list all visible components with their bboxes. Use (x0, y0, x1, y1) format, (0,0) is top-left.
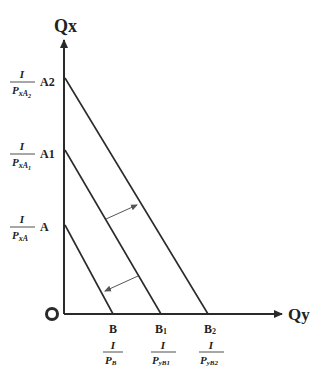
svg-text:A1: A1 (40, 147, 55, 161)
svg-text:PxA1: PxA1 (12, 156, 31, 171)
x-axis-label: Qy (288, 305, 310, 324)
y-intercept-A1: I PxA1 A1 (10, 140, 55, 171)
svg-text:I: I (208, 339, 214, 351)
svg-text:I: I (19, 140, 25, 152)
budget-line-A2B2 (65, 78, 208, 314)
svg-text:B: B (109, 322, 117, 336)
x-intercept-B: B I PB (103, 322, 123, 367)
svg-text:PyB2: PyB2 (200, 354, 219, 367)
inward-shift-arrow (105, 276, 138, 291)
budget-line-diagram: Qx Qy I PxA2 A2 I PxA1 A1 I PxA A B I PB… (0, 0, 322, 380)
svg-text:PxA2: PxA2 (12, 84, 31, 99)
budget-line-A1B1 (65, 150, 161, 314)
y-intercept-A2: I PxA2 A2 (10, 68, 55, 99)
x-intercept-B2: B2 I PyB2 (199, 322, 224, 367)
y-intercept-A: I PxA A (10, 213, 49, 243)
svg-text:I: I (160, 339, 166, 351)
svg-text:PxA: PxA (12, 229, 29, 243)
svg-text:A2: A2 (40, 75, 55, 89)
svg-text:I: I (110, 339, 116, 351)
budget-line-AB (65, 225, 113, 314)
outward-shift-arrow (106, 205, 137, 219)
svg-text:B2: B2 (204, 322, 216, 336)
svg-text:A: A (40, 220, 49, 234)
x-intercept-B1: B1 I PyB1 (151, 322, 176, 367)
svg-text:PB: PB (105, 354, 117, 367)
svg-text:I: I (19, 68, 25, 80)
svg-text:I: I (19, 213, 25, 225)
origin-marker (47, 309, 58, 320)
y-axis-label: Qx (54, 16, 77, 36)
svg-text:B1: B1 (155, 322, 167, 336)
svg-text:PyB1: PyB1 (152, 354, 170, 367)
